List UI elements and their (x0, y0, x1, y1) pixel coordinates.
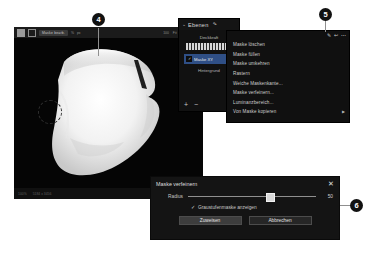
menu-item-label: Weiche Maskenkante... (233, 81, 283, 86)
menu-item-label: Maske verfeinern... (233, 90, 274, 95)
radius-row: Radius 50 (151, 190, 339, 202)
focus-ring-icon (38, 100, 62, 124)
radius-slider[interactable] (188, 191, 316, 201)
pencil-icon[interactable]: ✎ (212, 22, 217, 28)
menu-item-label: Maske füllen (233, 52, 260, 57)
editor-toolbar: Maske bearb. % px 100 Fit 1:1 100% (14, 27, 203, 38)
dialog-header: Maske verfeinern ✕ (151, 177, 339, 190)
grid-icon[interactable] (17, 29, 25, 37)
status-zoom: 100% (18, 191, 27, 197)
checkbox-checked-icon[interactable]: ✓ (186, 56, 192, 62)
menu-item-invert-mask[interactable]: Maske umkehren (227, 59, 349, 69)
menu-item-label: Von Maske kopieren (233, 109, 276, 114)
menu-item-feather-mask-edge[interactable]: Weiche Maskenkante... (227, 78, 349, 88)
callout-number: 6 (354, 202, 358, 210)
callout-badge-4: 4 (92, 13, 105, 26)
toolbar-unit-percent: % (71, 30, 74, 36)
toolbar-fit-label[interactable]: Fit (173, 30, 177, 36)
toolbar-unit-px: px (77, 30, 81, 36)
figure-root: Maske bearb. % px 100 Fit 1:1 100% (0, 0, 369, 256)
layers-panel-title: Ebenen (188, 22, 209, 28)
menu-item-label: Maske umkehren (233, 61, 270, 66)
layer-name: Maske XY (194, 57, 213, 62)
image-canvas[interactable] (14, 38, 203, 188)
add-layer-button[interactable]: + (184, 101, 188, 109)
slider-knob[interactable] (266, 193, 275, 202)
pencil-icon[interactable]: ✎ (327, 32, 331, 38)
menu-item-rasterize[interactable]: Rastern (227, 69, 349, 79)
menu-item-label: Maske löschen (233, 42, 265, 47)
callout-number: 4 (96, 16, 100, 24)
apply-button[interactable]: Zuweisen (179, 216, 242, 225)
arrow-icon[interactable]: ↩ (334, 32, 338, 38)
more-icon[interactable]: ⋯ (341, 32, 346, 38)
grayscale-mask-checkbox[interactable]: ✓ Graustufenmaske anzeigen (151, 202, 339, 213)
menu-item-luminance-range[interactable]: Luminanzbereich... (227, 98, 349, 108)
slider-track (188, 196, 316, 197)
photo-editor-window: Maske bearb. % px 100 Fit 1:1 100% (14, 27, 203, 199)
cancel-button[interactable]: Abbrechen (249, 216, 312, 225)
status-dimensions: 5184 x 3456 (33, 191, 52, 197)
dialog-buttons: Zuweisen Abbrechen (151, 216, 339, 225)
checkbox-checked-icon[interactable]: ✓ (191, 205, 195, 210)
checkbox-label: Graustufenmaske anzeigen (198, 205, 257, 210)
toolbar-zoom-value: 100 (163, 30, 169, 36)
callout-leader-4 (98, 28, 99, 56)
context-menu-header-icons: ✎ ↩ ⋯ (327, 32, 346, 38)
dialog-title: Maske verfeinern (156, 181, 197, 187)
menu-item-fill-mask[interactable]: Maske füllen (227, 50, 349, 60)
close-icon[interactable]: ✕ (328, 180, 334, 187)
menu-item-refine-mask[interactable]: Maske verfeinern... (227, 88, 349, 98)
radius-value: 50 (321, 194, 333, 199)
radius-label: Radius (157, 194, 183, 199)
mask-context-menu: ✎ ↩ ⋯ Maske löschen Maske füllen Maske u… (226, 30, 350, 123)
tool-chip[interactable]: Maske bearb. (39, 30, 68, 36)
chevron-right-icon: ▶ (342, 109, 345, 114)
chevron-down-icon[interactable]: ⌄ (182, 22, 186, 27)
menu-item-copy-from-mask[interactable]: Von Maske kopieren ▶ (227, 107, 349, 117)
menu-item-label: Luminanzbereich... (233, 100, 274, 105)
callout-badge-6: 6 (350, 199, 363, 212)
callout-badge-5: 5 (319, 8, 332, 21)
menu-item-delete-mask[interactable]: Maske löschen (227, 40, 349, 50)
remove-layer-button[interactable]: − (194, 101, 198, 109)
layers-panel-header[interactable]: ⌄ Ebenen ✎ (179, 19, 239, 30)
callout-leader-5 (325, 20, 326, 32)
menu-item-label: Rastern (233, 71, 250, 76)
refine-mask-dialog: Maske verfeinern ✕ Radius 50 ✓ Graustufe… (150, 176, 340, 240)
square-icon[interactable] (28, 29, 36, 37)
callout-number: 5 (323, 11, 327, 19)
